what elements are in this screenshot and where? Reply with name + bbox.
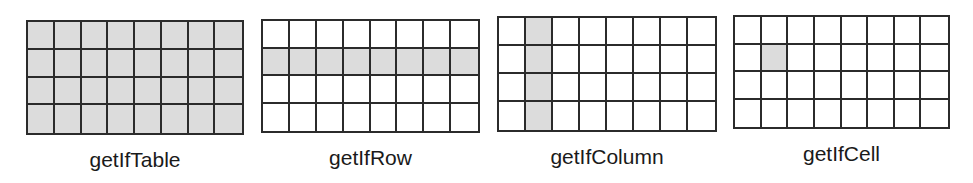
grid-cell [868, 17, 895, 45]
grid-cell [553, 46, 580, 74]
grid-cell [895, 45, 922, 73]
grid-cell [842, 17, 869, 45]
grid-cell [317, 104, 344, 132]
grid-cell-highlighted [162, 105, 189, 133]
grid-cell [451, 76, 478, 104]
grid-cell [290, 21, 317, 49]
grid-cell-highlighted [135, 105, 162, 133]
grid-cell [815, 17, 842, 45]
grid-cell-highlighted [526, 18, 553, 46]
grid-cell [921, 45, 948, 73]
panel-label: getIfColumn [497, 145, 717, 169]
grid-cell-highlighted [263, 49, 290, 77]
grid-cell [424, 76, 451, 104]
grid-cell [895, 17, 922, 45]
grid-cell [815, 72, 842, 100]
grid-cell [634, 46, 661, 74]
grid-cell-highlighted [28, 105, 55, 133]
grid-cell-highlighted [135, 22, 162, 50]
grid-cell-highlighted [108, 50, 135, 78]
grid-cell [762, 17, 789, 45]
grid-cell-highlighted [189, 22, 216, 50]
grid-cell [344, 76, 371, 104]
grid-cell-highlighted [397, 49, 424, 77]
grid-cell [842, 100, 869, 128]
grid-cell-highlighted [317, 49, 344, 77]
grid-cell [842, 45, 869, 73]
grid-cell [661, 74, 688, 102]
grid-cell [371, 21, 398, 49]
grid-cell [895, 72, 922, 100]
grid-cell [499, 102, 526, 130]
grid-cell [688, 18, 715, 46]
grid-cell [634, 18, 661, 46]
grid-cell [371, 76, 398, 104]
grid-cell [895, 100, 922, 128]
grid-cell [735, 17, 762, 45]
grid-cell-highlighted [189, 105, 216, 133]
grid-cell [634, 74, 661, 102]
grid-cell-highlighted [108, 22, 135, 50]
grid-cell [788, 17, 815, 45]
grid-cell [661, 102, 688, 130]
grid-cell [762, 72, 789, 100]
grid-cell [424, 21, 451, 49]
grid-cell [451, 104, 478, 132]
grid-cell-highlighted [28, 22, 55, 50]
grid-cell-highlighted [371, 49, 398, 77]
grid-cell [788, 45, 815, 73]
table-grid [261, 19, 480, 133]
grid-cell-highlighted [215, 78, 242, 106]
grid-cell [607, 74, 634, 102]
grid-cell-highlighted [82, 105, 109, 133]
grid-cell-highlighted [762, 45, 789, 73]
grid-cell [661, 18, 688, 46]
grid-cell [921, 72, 948, 100]
grid-cell [344, 21, 371, 49]
grid-cell [290, 76, 317, 104]
grid-cell [371, 104, 398, 132]
grid-cell [842, 72, 869, 100]
grid-cell [921, 17, 948, 45]
grid-cell-highlighted [108, 105, 135, 133]
grid-cell [815, 100, 842, 128]
grid-cell [607, 46, 634, 74]
grid-cell-highlighted [55, 50, 82, 78]
table-grid [497, 16, 717, 132]
grid-cell [263, 104, 290, 132]
grid-cell [451, 21, 478, 49]
grid-cell [762, 100, 789, 128]
grid-cell-highlighted [28, 50, 55, 78]
grid-cell [397, 21, 424, 49]
grid-cell [735, 100, 762, 128]
grid-cell [580, 102, 607, 130]
grid-cell-highlighted [215, 50, 242, 78]
grid-cell [263, 21, 290, 49]
grid-cell [580, 74, 607, 102]
grid-cell-highlighted [526, 46, 553, 74]
grid-cell [688, 46, 715, 74]
grid-cell [317, 21, 344, 49]
grid-cell [788, 72, 815, 100]
grid-cell-highlighted [82, 22, 109, 50]
grid-cell-highlighted [344, 49, 371, 77]
grid-cell-highlighted [526, 102, 553, 130]
grid-cell [788, 100, 815, 128]
grid-cell-highlighted [82, 50, 109, 78]
grid-cell [344, 104, 371, 132]
grid-cell [607, 102, 634, 130]
grid-cell [921, 100, 948, 128]
grid-cell-highlighted [215, 22, 242, 50]
grid-cell-highlighted [135, 78, 162, 106]
grid-cell [424, 104, 451, 132]
panel-label: getIfRow [261, 146, 480, 170]
grid-cell [580, 46, 607, 74]
grid-cell [815, 45, 842, 73]
grid-cell [499, 46, 526, 74]
grid-cell [580, 18, 607, 46]
grid-cell-highlighted [162, 78, 189, 106]
grid-cell [868, 72, 895, 100]
grid-cell [499, 74, 526, 102]
grid-cell-highlighted [451, 49, 478, 77]
panel-label: getIfCell [733, 142, 950, 166]
